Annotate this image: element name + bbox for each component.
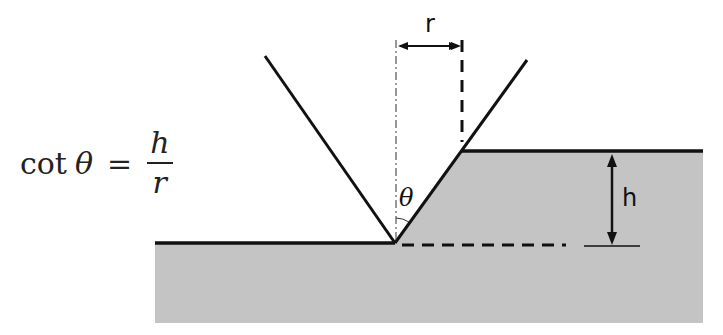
theta-angle-arc — [396, 218, 409, 222]
formula-fraction: h r — [146, 128, 173, 198]
r-label: r — [425, 10, 435, 38]
r-arrow-left-head — [398, 42, 408, 50]
theta-label: θ — [399, 184, 413, 212]
formula-theta: θ — [75, 146, 93, 181]
formula-denominator: r — [153, 164, 167, 198]
material-surface — [155, 151, 703, 323]
formula-numerator: h — [146, 128, 173, 162]
r-arrow-right-head — [451, 42, 461, 50]
formula-function: cot — [20, 146, 67, 181]
cot-theta-formula: cot θ = h r — [20, 128, 173, 198]
indenter-left-face — [265, 56, 395, 243]
h-label: h — [622, 184, 637, 212]
formula-equals: = — [107, 146, 132, 181]
